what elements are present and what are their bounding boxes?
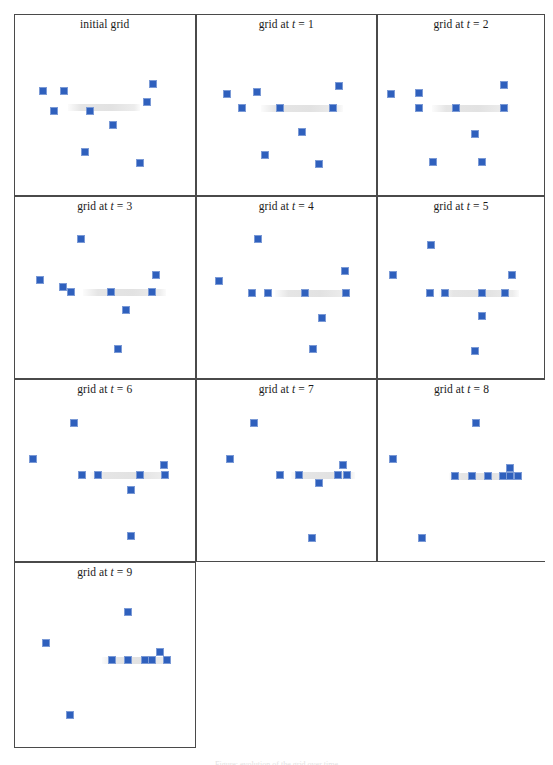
grid-cell-marker	[472, 419, 480, 427]
grid-cell-marker	[427, 241, 435, 249]
grid-cell-marker	[122, 306, 130, 314]
grid-cell-marker	[429, 158, 437, 166]
grid-cell-marker	[127, 532, 135, 540]
grid-cell-marker	[29, 455, 37, 463]
grid-cell-marker	[426, 289, 434, 297]
grid-cell-marker	[276, 471, 284, 479]
grid-cell-marker	[152, 271, 160, 279]
grid-cell-marker	[81, 148, 89, 156]
grid-cell-marker	[148, 288, 156, 296]
grid-cell-marker	[471, 347, 479, 355]
grid-cell-marker	[36, 276, 44, 284]
grid-panel: grid at t = 4	[196, 196, 378, 379]
grid-cell-marker	[253, 88, 261, 96]
grid-panel: grid at t = 5	[377, 196, 545, 379]
grid-cell-marker	[136, 159, 144, 167]
grid-cell-marker	[60, 87, 68, 95]
panel-plot-area	[378, 15, 544, 195]
grid-cell-marker	[264, 289, 272, 297]
grid-cell-marker	[508, 271, 516, 279]
grid-cell-marker	[387, 90, 395, 98]
grid-cell-marker	[335, 82, 343, 90]
grid-cell-marker	[276, 104, 284, 112]
grid-panel: grid at t = 1	[196, 14, 378, 196]
target-line-band	[275, 290, 350, 297]
grid-cell-marker	[506, 464, 514, 472]
grid-cell-marker	[66, 711, 74, 719]
grid-cell-marker	[295, 471, 303, 479]
grid-cell-marker	[484, 472, 492, 480]
grid-cell-marker	[298, 128, 306, 136]
grid-panel: grid at t = 8	[377, 379, 545, 562]
grid-panel: grid at t = 6	[14, 379, 196, 562]
target-line-band	[68, 104, 139, 111]
grid-cell-marker	[70, 419, 78, 427]
grid-cell-marker	[109, 121, 117, 129]
grid-cell-marker	[161, 471, 169, 479]
grid-cell-marker	[250, 419, 258, 427]
grid-cell-marker	[389, 455, 397, 463]
grid-cell-marker	[107, 288, 115, 296]
grid-cell-marker	[77, 235, 85, 243]
grid-panel: grid at t = 3	[14, 196, 196, 379]
grid-cell-marker	[309, 345, 317, 353]
panel-plot-area	[15, 380, 195, 561]
figure-caption: Figure: evolution of the grid over time	[0, 761, 553, 765]
grid-panel: initial grid	[14, 14, 196, 196]
grid-cell-marker	[315, 160, 323, 168]
grid-cell-marker	[514, 472, 522, 480]
panel-plot-area	[378, 197, 544, 378]
grid-cell-marker	[149, 80, 157, 88]
grid-cell-marker	[418, 534, 426, 542]
grid-cell-marker	[341, 267, 349, 275]
grid-cell-marker	[67, 288, 75, 296]
grid-cell-marker	[329, 104, 337, 112]
grid-cell-marker	[334, 471, 342, 479]
panel-plot-area	[15, 563, 195, 747]
grid-cell-marker	[59, 283, 67, 291]
grid-panel: grid at t = 9	[14, 562, 196, 748]
grid-cell-marker	[248, 289, 256, 297]
figure-grid-evolution: initial gridgrid at t = 1grid at t = 2gr…	[0, 0, 553, 765]
panel-plot-area	[197, 15, 377, 195]
grid-panel: grid at t = 2	[377, 14, 545, 196]
grid-cell-marker	[500, 104, 508, 112]
grid-cell-marker	[160, 461, 168, 469]
grid-cell-marker	[50, 107, 58, 115]
grid-cell-marker	[114, 345, 122, 353]
grid-cell-marker	[471, 130, 479, 138]
grid-cell-marker	[39, 87, 47, 95]
panel-plot-area	[15, 15, 195, 195]
grid-cell-marker	[127, 486, 135, 494]
grid-cell-marker	[215, 277, 223, 285]
grid-cell-marker	[308, 534, 316, 542]
panel-plot-area	[197, 380, 377, 561]
grid-cell-marker	[156, 648, 164, 656]
grid-cell-marker	[478, 312, 486, 320]
grid-cell-marker	[124, 608, 132, 616]
grid-cell-marker	[124, 656, 132, 664]
panel-plot-area	[15, 197, 195, 378]
grid-cell-marker	[226, 455, 234, 463]
grid-cell-marker	[342, 289, 350, 297]
grid-cell-marker	[451, 472, 459, 480]
grid-cell-marker	[441, 289, 449, 297]
grid-cell-marker	[78, 471, 86, 479]
grid-cell-marker	[506, 472, 514, 480]
grid-cell-marker	[163, 656, 171, 664]
grid-cell-marker	[86, 107, 94, 115]
grid-cell-marker	[501, 289, 509, 297]
target-line-band	[432, 105, 510, 112]
grid-cell-marker	[42, 639, 50, 647]
grid-cell-marker	[301, 289, 309, 297]
grid-cell-marker	[468, 472, 476, 480]
grid-cell-marker	[389, 271, 397, 279]
grid-cell-marker	[339, 461, 347, 469]
grid-cell-marker	[415, 104, 423, 112]
grid-panel: grid at t = 7	[196, 379, 378, 562]
panel-plot-area	[197, 197, 377, 378]
grid-cell-marker	[254, 235, 262, 243]
grid-cell-marker	[94, 471, 102, 479]
grid-cell-marker	[223, 90, 231, 98]
grid-cell-marker	[500, 81, 508, 89]
